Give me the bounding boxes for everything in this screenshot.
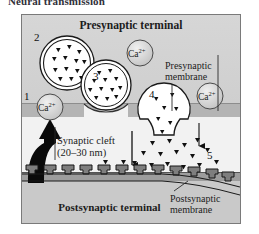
calcium-ion-3-label: Ca2+ [198,90,215,102]
calcium-ion-2-symbol: Ca [128,49,139,59]
calcium-ion-1-charge: 2+ [49,101,56,108]
vesicle-step-4-fusion [138,83,190,135]
figure-root: Neural transmission [0,0,259,234]
calcium-ion-1-symbol: Ca [38,103,49,113]
postsynaptic-membrane-label: Postsynaptic membrane [170,193,221,215]
synaptic-cleft-label: Synaptic cleft (20–30 nm) [57,135,115,159]
step-number-3: 3 [93,70,99,82]
synapse-diagram: Presynaptic terminal Postsynaptic termin… [21,14,241,224]
step-number-4: 4 [149,88,155,100]
calcium-ion-1-label: Ca2+ [38,101,55,113]
step-number-1: 1 [24,90,30,102]
postsynaptic-membrane-label-line1: Postsynaptic [170,193,221,204]
presynaptic-terminal-label: Presynaptic terminal [22,19,240,32]
presynaptic-membrane-label-line2: membrane [165,71,207,82]
step-number-5: 5 [207,149,213,161]
vesicle-step-3 [81,60,131,117]
calcium-ion-2-charge: 2+ [139,47,146,54]
presynaptic-membrane-label: Presynaptic membrane [165,60,212,82]
step-number-2: 2 [34,31,40,43]
calcium-ion-3-symbol: Ca [198,92,209,102]
calcium-ion-3-charge: 2+ [209,90,216,97]
postsynaptic-membrane-label-line2: membrane [170,204,212,215]
presynaptic-membrane-label-line1: Presynaptic [165,60,212,71]
calcium-ion-2-label: Ca2+ [128,47,145,59]
postsynaptic-membrane-curve [22,174,240,195]
figure-caption: Neural transmission [8,0,248,7]
synaptic-cleft-label-line2: (20–30 nm) [57,147,106,158]
synaptic-cleft-label-line1: Synaptic cleft [57,135,115,146]
